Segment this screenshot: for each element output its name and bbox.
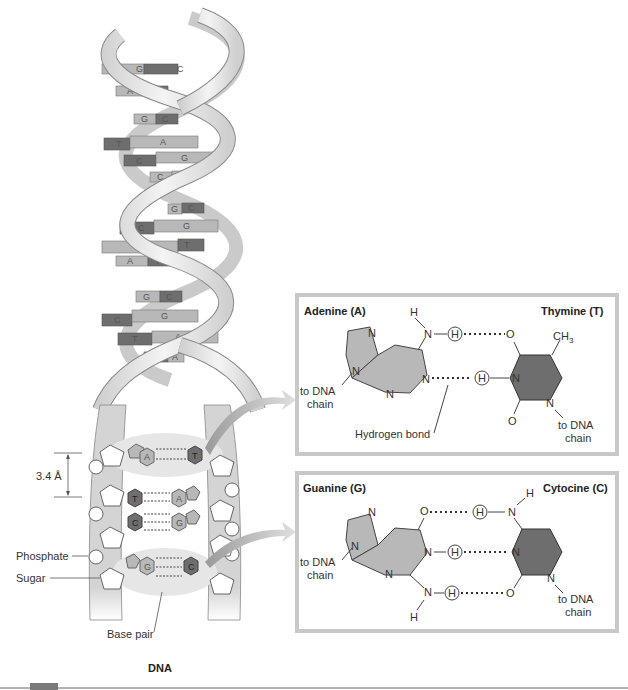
svg-text:C: C — [132, 518, 139, 528]
sugar-label: Sugar — [16, 572, 46, 584]
svg-text:N: N — [424, 586, 432, 598]
svg-text:G: G — [143, 292, 150, 302]
base-pair-label: Base pair — [107, 628, 154, 640]
svg-text:C: C — [162, 114, 169, 124]
svg-text:chain: chain — [307, 398, 333, 410]
svg-text:N: N — [424, 546, 432, 558]
svg-text:C: C — [166, 292, 173, 302]
svg-text:to DNA: to DNA — [558, 419, 594, 431]
highlight-oval-at — [107, 433, 223, 477]
svg-text:N: N — [508, 506, 516, 518]
at-pair-box: Adenine (A) Thymine (T) N N N N N H H O … — [297, 295, 617, 454]
rung: T A — [104, 136, 198, 150]
bottom-tab-marker — [30, 683, 58, 690]
thymine-title: Thymine (T) — [541, 305, 604, 317]
svg-text:A: A — [176, 494, 182, 504]
svg-text:G: G — [176, 518, 183, 528]
gc-pair-box: Guanine (G) Cytocine (C) N N N N O H N H… — [297, 473, 617, 631]
svg-text:T: T — [192, 451, 198, 461]
svg-text:to DNA: to DNA — [300, 385, 336, 397]
svg-text:C: C — [138, 223, 145, 233]
svg-text:G: G — [136, 64, 143, 74]
svg-text:N: N — [422, 373, 430, 385]
highlight-oval-gc — [113, 548, 217, 596]
svg-text:H: H — [410, 611, 418, 623]
svg-text:G: G — [161, 311, 168, 321]
svg-text:C: C — [177, 64, 184, 74]
svg-text:H: H — [476, 506, 484, 518]
svg-text:O: O — [420, 505, 429, 517]
rung: G C — [134, 114, 178, 124]
svg-text:G: G — [144, 562, 151, 572]
svg-text:N: N — [386, 388, 394, 400]
svg-text:C: C — [114, 315, 121, 325]
hydrogen-bond-label: Hydrogen bond — [355, 428, 430, 440]
base-pair-cg: C G — [128, 510, 200, 531]
svg-text:C: C — [188, 562, 195, 572]
svg-text:O: O — [506, 587, 515, 599]
svg-text:C: C — [188, 203, 195, 213]
svg-text:G: G — [181, 153, 188, 163]
svg-text:to DNA: to DNA — [300, 556, 336, 568]
svg-text:to DNA: to DNA — [558, 593, 594, 605]
cytocine-title: Cytocine (C) — [543, 482, 608, 494]
svg-text:H: H — [526, 487, 534, 499]
svg-text:O: O — [508, 415, 517, 427]
adenine-title: Adenine (A) — [304, 305, 366, 317]
svg-text:H: H — [410, 306, 418, 318]
svg-text:N: N — [512, 546, 520, 558]
double-helix: G C A T G C T A — [100, 15, 258, 410]
svg-text:chain: chain — [307, 569, 333, 581]
svg-text:N: N — [351, 540, 359, 552]
rung: G C — [168, 203, 204, 214]
figure-caption: DNA — [148, 662, 172, 674]
svg-text:N: N — [368, 327, 376, 339]
spacing-dimension: 3.4 Å — [36, 453, 82, 497]
svg-text:G: G — [183, 221, 190, 231]
svg-text:H: H — [478, 372, 486, 384]
svg-text:A: A — [160, 137, 166, 147]
svg-text:T: T — [132, 334, 138, 344]
svg-text:H: H — [448, 587, 456, 599]
svg-text:N: N — [352, 365, 360, 377]
dna-ladder: A T T A C G — [16, 405, 241, 640]
svg-text:N: N — [546, 397, 554, 409]
svg-text:N: N — [424, 328, 432, 340]
guanine-title: Guanine (G) — [303, 482, 366, 494]
svg-text:O: O — [506, 328, 515, 340]
svg-text:chain: chain — [565, 432, 591, 444]
svg-text:H: H — [451, 546, 459, 558]
phosphate-label: Phosphate — [16, 550, 69, 562]
svg-text:T: T — [184, 240, 190, 250]
svg-text:T: T — [132, 494, 138, 504]
svg-text:C: C — [136, 156, 143, 166]
svg-text:A: A — [144, 452, 150, 462]
rung: G C — [136, 291, 182, 302]
svg-text:N: N — [547, 572, 555, 584]
svg-text:G: G — [171, 204, 178, 214]
svg-text:A: A — [127, 256, 133, 266]
svg-text:G: G — [141, 114, 148, 124]
base-pair-ta: T A — [128, 486, 200, 507]
rung: C G — [102, 310, 198, 326]
svg-text:chain: chain — [565, 606, 591, 618]
svg-text:H: H — [451, 328, 459, 340]
svg-text:3.4 Å: 3.4 Å — [36, 470, 62, 482]
svg-text:N: N — [368, 506, 376, 518]
svg-text:T: T — [116, 139, 122, 149]
dna-figure: G C A T G C T A — [0, 0, 628, 690]
svg-text:N: N — [512, 372, 520, 384]
svg-text:N: N — [385, 568, 393, 580]
